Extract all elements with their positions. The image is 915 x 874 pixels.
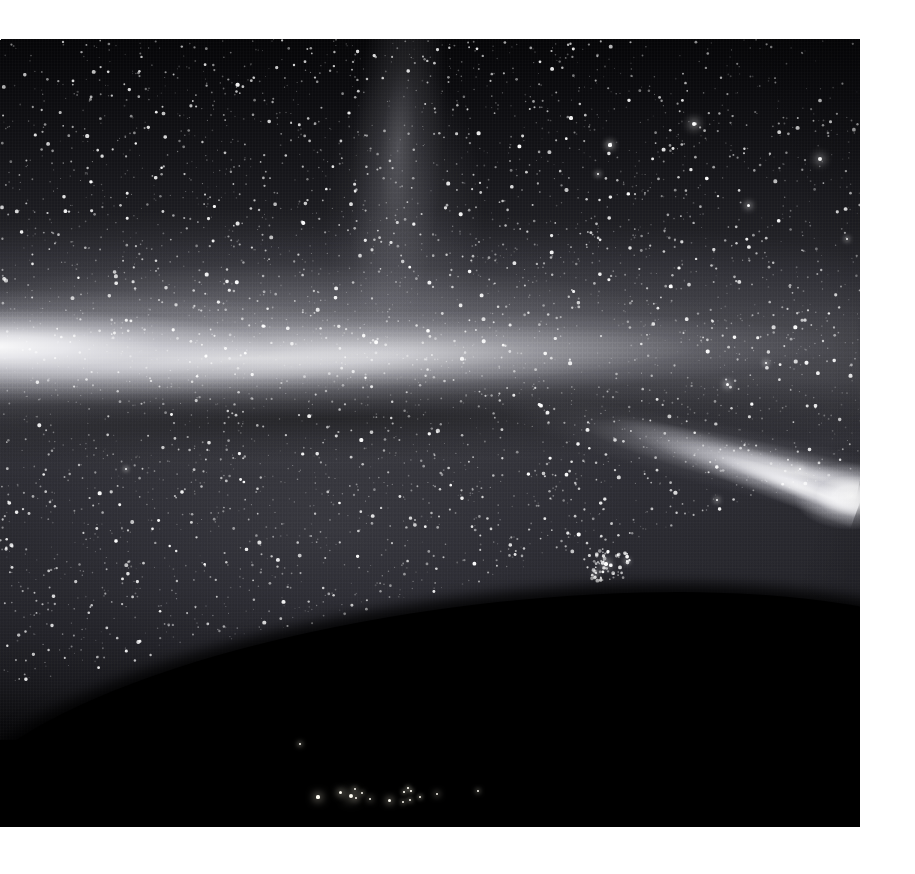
bright-star <box>818 157 822 161</box>
ground-light <box>349 794 353 798</box>
all-sky-photo <box>0 39 860 827</box>
bright-star <box>125 468 127 470</box>
page-root <box>0 0 915 874</box>
bright-star <box>747 204 750 207</box>
bright-star <box>597 173 599 175</box>
ground-light <box>339 791 342 794</box>
ground-light <box>402 801 404 803</box>
bright-star <box>595 572 597 574</box>
ground-light <box>410 790 412 792</box>
bright-star <box>608 143 611 146</box>
margin-bottom <box>0 827 915 874</box>
bright-star <box>765 362 768 365</box>
bright-star <box>799 468 802 471</box>
ground-light <box>316 795 319 798</box>
bright-star <box>626 560 628 562</box>
bright-star <box>692 122 697 127</box>
open-star-cluster <box>0 39 1 40</box>
foreground-black-band <box>0 740 860 827</box>
ground-light <box>477 790 479 792</box>
ground-light <box>407 787 409 789</box>
bright-star <box>726 383 729 386</box>
ground-light <box>361 792 363 794</box>
ground-light <box>388 799 391 802</box>
ground-light <box>403 791 405 793</box>
bright-star <box>604 562 607 565</box>
ground-light <box>354 788 356 790</box>
margin-right <box>860 0 915 874</box>
ground-light <box>419 796 421 798</box>
bright-star <box>846 238 849 241</box>
bright-star <box>716 499 719 502</box>
margin-top <box>0 0 915 39</box>
